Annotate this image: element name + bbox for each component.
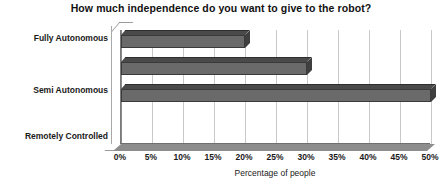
bar-front-face	[121, 35, 245, 48]
x-tick-label: 25%	[260, 152, 290, 162]
x-tick-label: 35%	[322, 152, 352, 162]
bar	[121, 35, 245, 48]
category-label: Remotely Controlled	[4, 131, 108, 141]
x-axis-title: Percentage of people	[120, 168, 430, 178]
bar-front-face	[121, 62, 307, 75]
bar-chart: How much independence do you want to giv…	[0, 0, 442, 196]
bar	[121, 89, 431, 102]
x-tick-label: 30%	[291, 152, 321, 162]
x-tick-label: 40%	[353, 152, 383, 162]
x-tick-label: 20%	[229, 152, 259, 162]
x-tick-label: 10%	[167, 152, 197, 162]
bar	[121, 62, 307, 75]
x-tick-label: 45%	[384, 152, 414, 162]
bar-front-face	[121, 89, 431, 102]
plot-area	[120, 30, 430, 144]
x-tick-label: 15%	[198, 152, 228, 162]
plot-floor	[113, 144, 435, 151]
category-label: Fully Autonomous	[4, 33, 108, 43]
x-tick-label: 50%	[415, 152, 442, 162]
x-tick-label: 5%	[136, 152, 166, 162]
plot-wall-left	[111, 26, 112, 144]
x-tick-label: 0%	[105, 152, 135, 162]
category-axis: Fully AutonomousSemi AutonomousRemotely …	[0, 0, 108, 196]
category-label: Semi Autonomous	[4, 85, 108, 95]
axis-baseline	[120, 143, 430, 144]
